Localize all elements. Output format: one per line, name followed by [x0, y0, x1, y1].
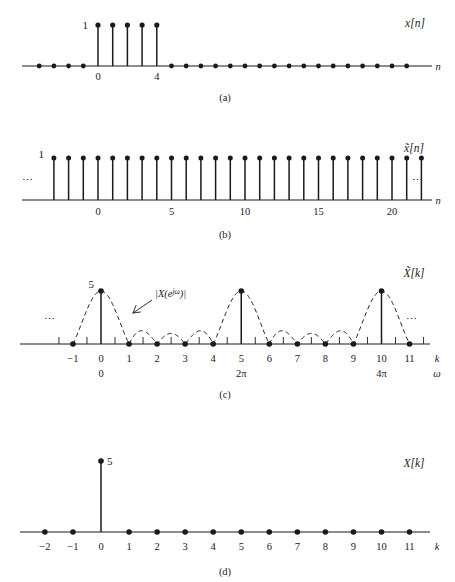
sample-dot-b [125, 156, 130, 161]
tick-label-d--2: −2 [39, 541, 50, 552]
omega-label-c-10: 4π [376, 368, 387, 379]
tick-labels-d: −2−101234567891011 [39, 541, 414, 552]
zero-dot-c [154, 341, 160, 347]
tick-label-b-15: 15 [313, 206, 324, 217]
zero-dot-c [407, 341, 413, 347]
panel-letter-d: (d) [219, 566, 232, 578]
zero-dot-c [323, 341, 329, 347]
sample-dot-b [419, 156, 424, 161]
tick-label-d-3: 3 [183, 541, 188, 552]
zero-dot-d [323, 529, 329, 535]
tick-label-d-7: 7 [295, 541, 300, 552]
tick-label-c-7: 7 [295, 353, 300, 364]
panel-c: 5 ⋯ ⋯ |X(ejω)| −101234567891011 02π4π k … [0, 245, 455, 405]
sample-dot-c [98, 288, 104, 294]
zero-dot-d [267, 529, 273, 535]
envelope-label: |X(ejω)| [155, 287, 186, 301]
tick-label-c-8: 8 [323, 353, 328, 364]
sample-dot-b [272, 156, 277, 161]
tick-label-d-9: 9 [351, 541, 356, 552]
tick-label-d-11: 11 [404, 541, 414, 552]
zero-dot-d [42, 529, 48, 535]
panel-a: 1 0 4 n x[n] (a) [0, 0, 455, 110]
zero-dot-d [351, 529, 357, 535]
panel-b-plot: 1 ⋯ ⋯ 0 5 10 15 20 n x̃[n] (b) [0, 110, 455, 245]
sample-dot-b [169, 156, 174, 161]
tick-label-c-0: 0 [98, 353, 103, 364]
panel-letter-a: (a) [219, 92, 231, 104]
zero-dot-c [70, 341, 76, 347]
tick-labels-c: −101234567891011 [67, 353, 414, 364]
sample-dot-b [375, 156, 380, 161]
tick-label-d-4: 4 [211, 541, 217, 552]
zero-dot-c [295, 341, 301, 347]
omega-axis-label-c: ω [433, 368, 440, 379]
sample-dot-b [331, 156, 336, 161]
panel-c-plot: 5 ⋯ ⋯ |X(ejω)| −101234567891011 02π4π k … [0, 245, 455, 405]
tick-label-d-2: 2 [154, 541, 159, 552]
sample-dot-b [301, 156, 306, 161]
zero-dot-d [182, 529, 188, 535]
sample-dot-b [198, 156, 203, 161]
sample-dot-b [184, 156, 189, 161]
zero-dot-d [238, 529, 244, 535]
sample-dot-b [213, 156, 218, 161]
amplitude-label-c: 5 [89, 278, 95, 290]
sample-dot-b [243, 156, 248, 161]
amplitude-label-a: 1 [83, 19, 89, 31]
tick-label-c-2: 2 [154, 353, 159, 364]
sample-dot-c [379, 288, 385, 294]
tick-label-c-9: 9 [351, 353, 356, 364]
zero-dot-d [210, 529, 216, 535]
signal-label-b: x̃[n] [403, 142, 424, 154]
zero-dot-d [407, 529, 413, 535]
tick-label-b-20: 20 [387, 206, 398, 217]
axis-label-a: n [435, 61, 440, 72]
sample-dot-b [96, 156, 101, 161]
panel-d: 5 −2−101234567891011 k X[k] (d) [0, 405, 455, 582]
tick-label-c-11: 11 [404, 353, 414, 364]
signal-label-d: X[k] [402, 457, 424, 469]
tick-label-d-0: 0 [98, 541, 103, 552]
omega-label-c-5: 2π [236, 368, 247, 379]
tick-label-d-8: 8 [323, 541, 328, 552]
sample-dot-b [360, 156, 365, 161]
omega-labels-c: 02π4π [98, 368, 387, 379]
signal-label-c: X̃[k] [402, 266, 424, 279]
tick-label-d-10: 10 [376, 541, 387, 552]
left-ellipsis-c: ⋯ [44, 313, 56, 325]
zero-dot-d [70, 529, 76, 535]
sample-dot-b [140, 156, 145, 161]
signal-label-a: x[n] [404, 17, 425, 29]
sample-dot-b [51, 156, 56, 161]
stems-a [98, 25, 157, 66]
tick-label-a-4: 4 [154, 71, 160, 82]
tick-label-d-6: 6 [267, 541, 272, 552]
tick-label-c-4: 4 [211, 353, 217, 364]
sample-dot-b [345, 156, 350, 161]
panel-letter-b: (b) [219, 229, 232, 241]
zero-dot-d [154, 529, 160, 535]
zero-dot-c [182, 341, 188, 347]
tick-label-c-1: 1 [126, 353, 131, 364]
sample-dot-b [257, 156, 262, 161]
axis-label-b: n [435, 195, 440, 206]
sample-dot-b [390, 156, 395, 161]
sample-dot-b [81, 156, 86, 161]
axis-label-c: k [435, 353, 440, 364]
envelope-annotation: |X(ejω)| [133, 287, 186, 314]
sample-dot-b [154, 156, 159, 161]
sample-dots-a [37, 22, 409, 68]
tick-label-c-3: 3 [183, 353, 188, 364]
sample-dot-b [316, 156, 321, 161]
sample-dot-b [287, 156, 292, 161]
amplitude-label-b: 1 [39, 148, 45, 160]
stems-b [51, 156, 424, 201]
panel-b: 1 ⋯ ⋯ 0 5 10 15 20 n x̃[n] (b) [0, 110, 455, 245]
dsp-figure: 1 0 4 n x[n] (a) 1 ⋯ ⋯ 0 5 10 15 20 n x̃… [0, 0, 455, 582]
zero-dot-c [351, 341, 357, 347]
sample-dot-c [238, 288, 244, 294]
tick-label-c-10: 10 [376, 353, 387, 364]
tick-label-b-5: 5 [169, 206, 174, 217]
sample-dot-b [66, 156, 71, 161]
